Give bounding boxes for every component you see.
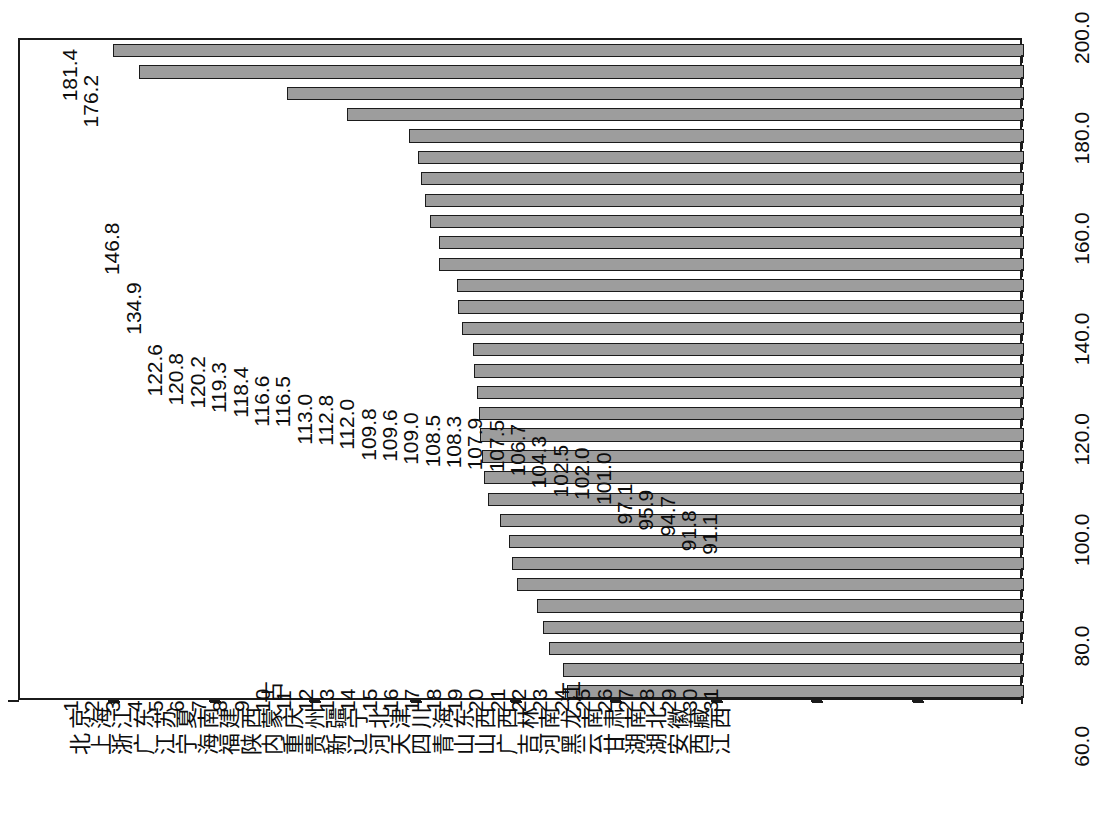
category-name-label: 江西 <box>702 703 734 755</box>
category-axis-tick <box>1021 98 1023 106</box>
value-axis-label: 140.0 <box>1070 313 1094 366</box>
bar <box>563 663 1024 676</box>
value-axis-label: 120.0 <box>1070 413 1094 466</box>
category-axis-tick <box>1021 141 1023 149</box>
category-axis-tick <box>1021 119 1023 127</box>
category-axis-tick <box>1021 632 1023 640</box>
bar-value-label: 134.9 <box>122 282 146 335</box>
category-axis-tick <box>1021 226 1023 234</box>
category-axis-tick <box>1021 183 1023 191</box>
value-axis-label: 200.0 <box>1070 11 1094 64</box>
bar <box>462 322 1024 335</box>
bar <box>479 407 1024 420</box>
bar <box>543 621 1024 634</box>
category-axis-tick <box>1021 77 1023 85</box>
category-axis-tick <box>1021 290 1023 298</box>
value-axis-tick-mark <box>912 700 923 702</box>
bar <box>457 279 1024 292</box>
bar <box>425 194 1024 207</box>
value-axis-label: 180.0 <box>1070 112 1094 165</box>
value-axis-label: 80.0 <box>1070 626 1094 667</box>
category-axis-tick <box>1021 482 1023 490</box>
category-axis-tick <box>1021 675 1023 683</box>
bar <box>430 215 1024 228</box>
category-axis-tick <box>1021 354 1023 362</box>
bar-value-label: 91.1 <box>698 514 722 555</box>
chart-page: 181.4176.2146.8134.9122.6120.8120.2119.3… <box>0 0 1105 826</box>
category-axis-tick <box>1021 611 1023 619</box>
category-axis-tick <box>1021 376 1023 384</box>
category-axis-tick <box>1021 333 1023 341</box>
bar <box>418 151 1024 164</box>
category-axis-tick <box>1021 568 1023 576</box>
bar <box>474 364 1024 377</box>
bar-value-label: 146.8 <box>100 223 124 276</box>
category-axis-tick <box>1021 547 1023 555</box>
bar <box>480 428 1024 441</box>
category-axis-tick <box>1021 248 1023 256</box>
category-axis-tick <box>1021 589 1023 597</box>
category-axis-tick <box>1021 696 1023 704</box>
category-axis-tick <box>1021 461 1023 469</box>
category-axis-tick <box>1021 504 1023 512</box>
category-axis-tick <box>1021 162 1023 170</box>
value-axis-label: 160.0 <box>1070 212 1094 265</box>
bar <box>549 642 1024 655</box>
category-axis-tick <box>1021 653 1023 661</box>
bar <box>421 172 1024 185</box>
bar <box>139 65 1024 78</box>
category-axis-tick <box>1021 205 1023 213</box>
bar <box>477 386 1024 399</box>
bar <box>287 87 1024 100</box>
category-axis-tick <box>1021 312 1023 320</box>
bar <box>113 44 1024 57</box>
category-axis-tick <box>1021 269 1023 277</box>
value-axis-label: 100.0 <box>1070 513 1094 566</box>
bar-value-label: 176.2 <box>79 75 103 128</box>
category-axis-tick <box>1021 418 1023 426</box>
bar <box>439 236 1024 249</box>
bar <box>409 129 1024 142</box>
category-axis-tick <box>1021 440 1023 448</box>
value-axis-tick-mark <box>8 700 19 702</box>
bar <box>500 514 1024 527</box>
category-axis-tick <box>1021 525 1023 533</box>
category-axis-tick <box>1021 55 1023 63</box>
bar <box>517 578 1024 591</box>
bar <box>458 300 1024 313</box>
value-axis-label: 60.0 <box>1070 726 1094 767</box>
bar <box>473 343 1024 356</box>
bar <box>537 599 1024 612</box>
category-axis-tick <box>1021 397 1023 405</box>
bar <box>512 557 1024 570</box>
bar <box>509 535 1024 548</box>
bar <box>347 108 1024 121</box>
bar <box>439 258 1024 271</box>
value-axis-tick-mark <box>811 700 822 702</box>
